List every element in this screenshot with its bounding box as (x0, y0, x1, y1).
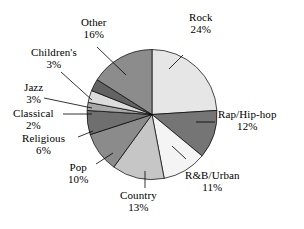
label-childrens-pct: 3% (31, 59, 77, 71)
label-country-name: Country (120, 190, 157, 202)
label-classical: Classical 2% (13, 108, 54, 131)
label-religious-name: Religious (22, 133, 65, 145)
label-country-pct: 13% (120, 202, 157, 214)
pie-slice-rock (152, 50, 217, 115)
label-rock-name: Rock (189, 12, 213, 24)
label-classical-name: Classical (13, 108, 54, 120)
label-rnb: R&B/Urban 11% (185, 170, 240, 193)
label-other-pct: 16% (81, 29, 107, 41)
label-rap-pct: 12% (218, 121, 277, 133)
label-rock-pct: 24% (189, 24, 213, 36)
label-childrens: Children's 3% (31, 47, 77, 70)
label-rap-name: Rap/Hip-hop (218, 109, 277, 121)
label-rnb-pct: 11% (185, 182, 240, 194)
label-religious: Religious 6% (22, 133, 65, 156)
label-rnb-name: R&B/Urban (185, 170, 240, 182)
label-pop-name: Pop (68, 162, 88, 174)
label-rock: Rock 24% (189, 12, 213, 35)
label-jazz: Jazz 3% (24, 82, 43, 105)
label-jazz-pct: 3% (24, 94, 43, 106)
leader-line-childrens (61, 72, 92, 100)
label-other: Other 16% (81, 17, 107, 40)
pie-slices-group (87, 50, 217, 180)
label-classical-pct: 2% (13, 120, 54, 132)
label-pop-pct: 10% (68, 174, 88, 186)
label-rap: Rap/Hip-hop 12% (218, 109, 277, 132)
label-pop: Pop 10% (68, 162, 88, 185)
label-childrens-name: Children's (31, 47, 77, 59)
pie-chart-screenshot: Rock 24% Rap/Hip-hop 12% R&B/Urban 11% C… (0, 0, 304, 229)
label-religious-pct: 6% (22, 145, 65, 157)
label-other-name: Other (81, 17, 107, 29)
label-jazz-name: Jazz (24, 82, 43, 94)
label-country: Country 13% (120, 190, 157, 213)
